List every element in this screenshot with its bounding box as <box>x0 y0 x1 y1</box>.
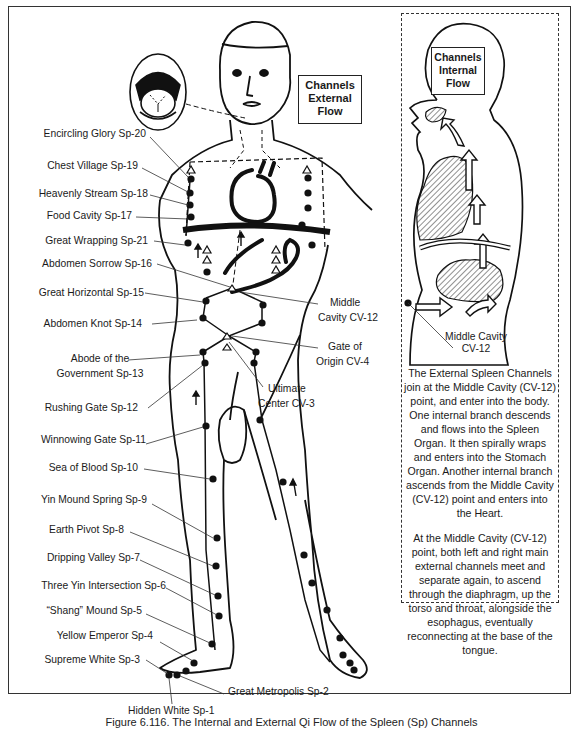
box-line: Channels <box>432 51 484 64</box>
point-label-sp19: Chest Village Sp-19 <box>10 160 138 172</box>
point-label-sp15: Great Horizontal Sp-15 <box>10 287 144 299</box>
box-line: External <box>299 92 361 105</box>
point-label-sp3: Supreme White Sp-3 <box>10 654 140 666</box>
point-label-sp10: Sea of Blood Sp-10 <box>10 462 138 474</box>
point-label-sp13: Abode of the Government Sp-13 <box>40 353 160 380</box>
point-label-cv3: Ultimate Center CV-3 <box>258 383 338 410</box>
point-label-sp11: Winnowing Gate Sp-11 <box>10 434 146 446</box>
point-label-sp4: Yellow Emperor Sp-4 <box>10 630 153 642</box>
label-line: Ultimate <box>258 383 338 395</box>
figure-caption: Figure 6.116. The Internal and External … <box>0 716 583 728</box>
stomach-spleen-path <box>225 240 298 292</box>
label-line: CV-12 <box>440 343 512 355</box>
description-paragraph: At the Middle Cavity (CV-12) point, both… <box>404 531 556 657</box>
label-line: Government Sp-13 <box>40 368 160 380</box>
abdomen-channel <box>203 288 262 336</box>
mouth-tongue-icon <box>130 54 186 130</box>
box-line: Flow <box>299 105 361 118</box>
point-label-sp8: Earth Pivot Sp-8 <box>10 524 124 536</box>
box-line: Internal <box>432 64 484 77</box>
label-line: Middle <box>318 297 398 309</box>
internal-flow-box: Channels Internal Flow <box>431 47 485 95</box>
point-label-sp7: Dripping Valley Sp-7 <box>10 552 140 564</box>
internal-flow-description: The External Spleen Channels join at the… <box>404 366 556 668</box>
point-label-sp20: Encircling Glory Sp-20 <box>10 128 146 140</box>
leader-lines <box>128 137 318 704</box>
middle-cavity-label-internal: Middle Cavity CV-12 <box>440 331 512 355</box>
diaphragm-band <box>183 225 330 232</box>
point-label-sp21: Great Wrapping Sp-21 <box>10 235 148 247</box>
label-line: Cavity CV-12 <box>318 312 398 324</box>
label-line: Gate of <box>316 341 396 353</box>
label-line: Origin CV-4 <box>316 356 396 368</box>
label-line: Middle Cavity <box>440 331 512 343</box>
point-label-sp12: Rushing Gate Sp-12 <box>10 402 138 414</box>
point-label-cv4: Gate of Origin CV-4 <box>316 341 396 368</box>
point-label-sp18: Heavenly Stream Sp-18 <box>10 188 148 200</box>
point-label-sp6: Three Yin Intersection Sp-6 <box>10 580 166 592</box>
label-line: Abode of the <box>40 353 160 365</box>
box-line: Channels <box>299 79 361 92</box>
heart-icon <box>231 162 274 222</box>
external-flow-box: Channels External Flow <box>298 75 362 124</box>
point-label-sp2: Great Metropolis Sp-2 <box>228 686 329 698</box>
point-label-sp14: Abdomen Knot Sp-14 <box>10 318 142 330</box>
flow-arrow-markers <box>187 166 311 350</box>
description-paragraph: The External Spleen Channels join at the… <box>404 366 556 520</box>
point-label-sp9: Yin Mound Spring Sp-9 <box>10 494 147 506</box>
point-label-sp5: “Shang” Mound Sp-5 <box>10 605 142 617</box>
label-line: Center CV-3 <box>258 398 338 410</box>
point-label-sp17: Food Cavity Sp-17 <box>10 210 132 222</box>
point-label-sp16: Abdomen Sorrow Sp-16 <box>10 258 152 270</box>
tongue-link-line <box>186 104 245 118</box>
box-line: Flow <box>432 77 484 90</box>
point-label-cv12: Middle Cavity CV-12 <box>318 297 398 324</box>
